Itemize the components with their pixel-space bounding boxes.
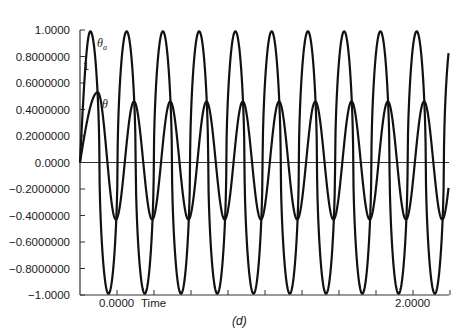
y-tick-label: 0.0000 [35, 157, 70, 169]
series-label-theta-a: θa [97, 36, 107, 52]
y-tick-label: −0.2000000 [9, 183, 70, 195]
y-tick-label: −1.0000 [28, 289, 70, 301]
y-tick-label: 0.6000000 [16, 77, 70, 89]
y-tick-label: 0.4000000 [16, 104, 70, 116]
annotation-1: 1 [83, 60, 89, 72]
x-tick-label: 0.0000 [99, 297, 134, 309]
y-tick-label: 0.2000000 [16, 130, 70, 142]
series-label-theta-a-sub: a [103, 43, 107, 52]
y-tick-label: −0.8000000 [9, 263, 70, 275]
figure-caption: (d) [232, 314, 247, 328]
y-tick-label: 0.8000000 [16, 51, 70, 63]
y-tick-label: −0.6000000 [9, 236, 70, 248]
y-tick-label: 1.0000 [35, 24, 70, 36]
series-label-theta: θ [102, 97, 108, 112]
x-tick-label: 2.0000 [395, 297, 430, 309]
series-label-theta-main: θ [102, 97, 108, 111]
y-tick-label: −0.4000000 [9, 210, 70, 222]
x-axis-title: Time [141, 297, 166, 309]
